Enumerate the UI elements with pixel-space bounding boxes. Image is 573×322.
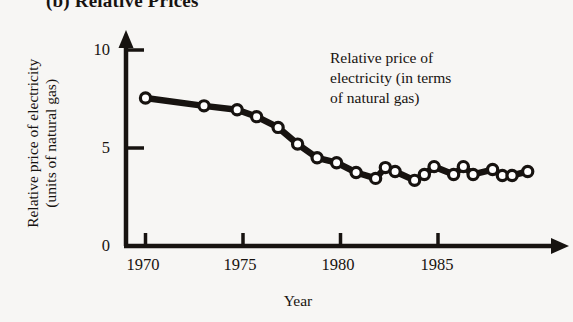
data-point-1982.8 xyxy=(390,166,400,176)
data-point-1989.6 xyxy=(523,166,533,176)
data-point-1981.8 xyxy=(371,173,381,183)
axes-group xyxy=(119,30,570,254)
data-point-1986.8 xyxy=(468,169,478,179)
data-point-1980.8 xyxy=(351,167,361,177)
data-point-1974.7 xyxy=(232,105,242,115)
data-point-1988.8 xyxy=(507,170,517,180)
data-point-1973 xyxy=(199,101,209,111)
data-point-1985.8 xyxy=(449,169,459,179)
data-series-line xyxy=(140,93,532,186)
data-point-1984.8 xyxy=(429,162,439,172)
data-point-1975.7 xyxy=(252,112,262,122)
data-point-1984.3 xyxy=(419,169,429,179)
data-point-1976.8 xyxy=(273,122,283,132)
data-point-1979.8 xyxy=(332,158,342,168)
plot-area xyxy=(0,0,573,322)
data-point-1970 xyxy=(140,93,150,103)
data-point-1977.8 xyxy=(293,139,303,149)
data-point-1986.3 xyxy=(458,162,468,172)
data-point-1978.8 xyxy=(312,153,322,163)
chart-figure: (b) Relative Prices Relative price of el… xyxy=(0,0,573,322)
y-axis-arrowhead xyxy=(119,30,134,48)
x-axis-arrowhead xyxy=(551,238,569,254)
